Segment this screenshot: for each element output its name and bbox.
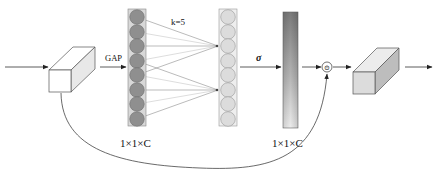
output-feature-cube [353,48,399,94]
conv-output-column [219,9,237,126]
conv1d-connections [137,17,218,119]
multiply-node: ⊙ [322,62,332,72]
kernel-size-label: k=5 [171,17,186,27]
gap-label: GAP [105,53,122,63]
eca-diagram: GAP k=5 σ [0,0,443,178]
pooled-vector-column [128,9,146,126]
attention-weights-bar [283,12,298,128]
svg-text:⊙: ⊙ [324,64,330,72]
weights-dim-label: 1×1×C [272,137,303,149]
sigma-label: σ [256,52,262,63]
pooled-dim-label: 1×1×C [120,137,151,149]
input-feature-cube [49,47,95,92]
